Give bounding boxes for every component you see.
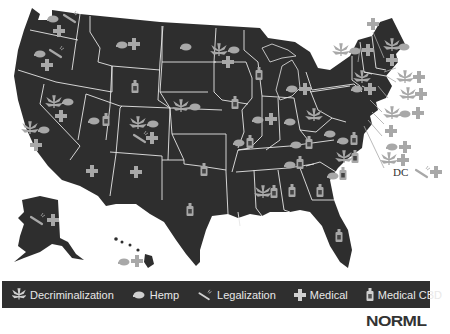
legend-item-hemp: Hemp	[132, 289, 179, 301]
norml-logo: NORML	[366, 312, 426, 329]
us-marijuana-policy-map: DC	[0, 0, 450, 280]
hemp-cap-icon	[132, 289, 146, 301]
legend-item-legalization: Legalization	[197, 289, 276, 301]
leaf-icon	[12, 288, 26, 302]
cross-icon	[294, 289, 306, 301]
legend-item-medical: Medical	[294, 289, 348, 301]
joint-icon	[197, 289, 213, 301]
legend-label: Medical	[310, 289, 348, 301]
legend-label: Decriminalization	[30, 289, 114, 301]
bottle-icon	[366, 288, 374, 302]
legend-item-medical-cbd: Medical CBD	[366, 288, 442, 302]
legend-item-decriminalization: Decriminalization	[12, 288, 114, 302]
legend-label: Hemp	[150, 289, 179, 301]
legend-label: Medical CBD	[378, 289, 442, 301]
legend-label: Legalization	[217, 289, 276, 301]
legend: Decriminalization Hemp Legalization Medi…	[2, 281, 430, 308]
alaska	[14, 196, 84, 262]
dc-label: DC	[393, 166, 408, 178]
